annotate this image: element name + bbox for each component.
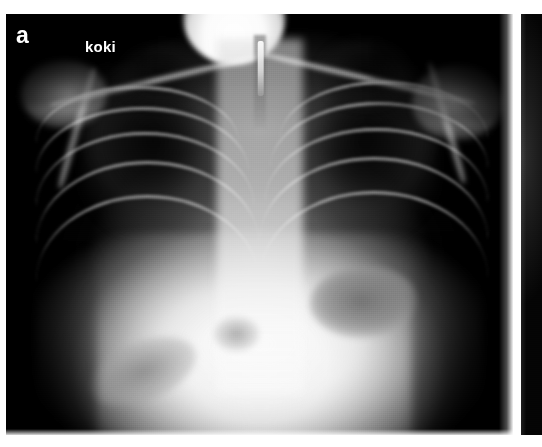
background-corner-bottom-right xyxy=(412,241,513,435)
panel-right-edge-fade xyxy=(499,14,513,435)
trachea xyxy=(253,35,265,128)
panel-label-a: a xyxy=(16,24,29,47)
film-grain-overlay xyxy=(6,14,513,435)
rib-right-2 xyxy=(36,107,249,173)
rib-left-3 xyxy=(265,128,488,203)
abdomen-region xyxy=(36,233,482,435)
panel-b-image xyxy=(521,14,542,435)
rib-left-5 xyxy=(260,191,488,278)
panel-bottom-edge-fade xyxy=(6,429,513,435)
mediastinum xyxy=(216,39,302,393)
bowel-gas-shadow xyxy=(80,324,205,420)
radiograph-panel-a: a koki xyxy=(6,14,513,435)
lung-apex-right xyxy=(118,43,204,106)
scapula-right xyxy=(55,66,99,190)
background-corner-top-right xyxy=(371,14,513,123)
neck-region xyxy=(183,14,284,65)
scapula-left xyxy=(425,61,469,185)
radiograph-panel-b-sliver xyxy=(521,14,542,435)
clavicle-left xyxy=(261,51,475,108)
torso-soft-tissue xyxy=(26,31,492,435)
shoulder-left xyxy=(412,65,503,141)
lung-field-right xyxy=(82,65,219,233)
clavicle-right xyxy=(48,53,257,109)
bowel-gas-shadow-secondary xyxy=(214,317,260,351)
rib-left-4 xyxy=(260,157,488,240)
gastric-gas-bubble xyxy=(310,267,416,339)
rib-left-1 xyxy=(280,81,488,139)
rib-left-2 xyxy=(270,102,488,168)
shoulder-right xyxy=(21,60,107,127)
annotation-koki: koki xyxy=(85,39,116,54)
background-corner-bottom-left xyxy=(6,250,97,435)
xray-anatomy-layer xyxy=(6,14,513,435)
tracheal-tube xyxy=(257,41,264,96)
lung-apex-left xyxy=(320,39,411,106)
rib-right-4 xyxy=(36,161,259,244)
rib-right-5 xyxy=(36,195,259,282)
figure-root: a koki xyxy=(0,0,542,447)
rib-right-1 xyxy=(36,86,239,144)
lung-field-left xyxy=(300,65,437,233)
rib-right-3 xyxy=(36,132,254,207)
